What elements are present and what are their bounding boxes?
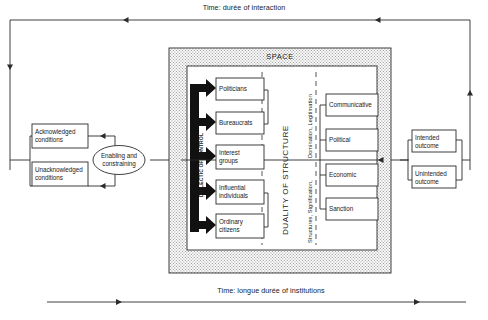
label-bureaucrats: Bureaucrats: [216, 119, 264, 127]
diagram-canvas: Time: durée of interaction Acknowledged …: [0, 0, 488, 320]
label-sanction: Sanction: [326, 205, 378, 213]
label-enabling-constraining: Enabling and constraining: [93, 152, 145, 167]
bottom-timeline-label: Time: longue durée of institutions: [156, 287, 386, 295]
label-duality-of-structure: DUALITY OF STRUCTURE: [281, 125, 290, 235]
label-political: Political: [326, 136, 378, 144]
label-communicative: Communicative: [326, 101, 378, 109]
label-acknowledged-conditions: Acknowledged conditions: [32, 128, 88, 143]
label-modalities-upper: Domination, Legitimation: [307, 94, 313, 158]
label-modalities-lower: Structures, Signification,: [307, 180, 313, 243]
label-influential-individuals: Influential individuals: [216, 184, 264, 199]
label-interest-groups: Interest groups: [216, 149, 264, 164]
top-timeline-label: Time: durée of interaction: [144, 4, 344, 12]
label-unintended-outcome: Unintended outcome: [412, 170, 456, 185]
label-space: SPACE: [220, 53, 340, 61]
label-intended-outcome: Intended outcome: [412, 134, 456, 149]
label-politicians: Politicians: [216, 85, 264, 93]
label-dialectic-of-control: DIALECTIC OF CONTROL: [198, 133, 204, 197]
label-unacknowledged-conditions: Unacknowledged conditions: [32, 166, 88, 181]
label-ordinary-citizens: Ordinary citizens: [216, 218, 264, 233]
label-economic: Economic: [326, 171, 378, 179]
